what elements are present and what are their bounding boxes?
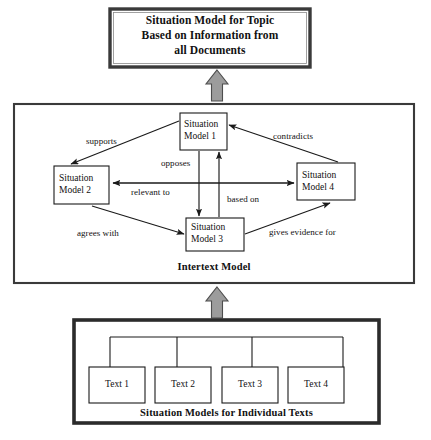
node-label-t3: Text 3 [222, 379, 278, 389]
node-label-sm4-line2: Model 4 [302, 182, 336, 194]
intertext-model-caption: Intertext Model [14, 261, 414, 272]
node-label-sm2-line1: Situation [59, 173, 93, 185]
relation-label-based-on: based on [227, 194, 259, 204]
relation-label-opposes: opposes [161, 158, 190, 168]
flow-arrow-intertext-to-banner [206, 70, 228, 101]
diagram-canvas [0, 0, 431, 440]
title-banner-text: Situation Model for Topic Based on Infor… [110, 13, 310, 59]
relation-label-supports: supports [86, 136, 117, 146]
node-label-t4: Text 4 [288, 379, 344, 389]
texts-section-caption: Situation Models for Individual Texts [74, 407, 379, 418]
relation-label-contradicts: contradicts [273, 131, 313, 141]
node-label-sm4: Situation Model 4 [302, 170, 336, 193]
node-label-sm2-line2: Model 2 [59, 185, 93, 197]
relation-label-gives-evidence-for: gives evidence for [269, 227, 336, 237]
node-label-sm1-line2: Model 1 [184, 131, 218, 143]
relation-label-agrees-with: agrees with [77, 228, 119, 238]
title-banner-line-2: Based on Information from [110, 28, 310, 43]
node-label-sm1: Situation Model 1 [184, 119, 218, 142]
node-label-sm1-line1: Situation [184, 119, 218, 131]
node-label-t2: Text 2 [155, 379, 211, 389]
flow-arrow-texts-to-intertext [206, 287, 228, 318]
node-label-sm2: Situation Model 2 [59, 173, 93, 196]
node-label-sm3-line1: Situation [191, 222, 225, 234]
title-banner-line-3: all Documents [110, 43, 310, 58]
relation-label-relevant-to: relevant to [131, 187, 170, 197]
node-label-sm4-line1: Situation [302, 170, 336, 182]
node-label-sm3: Situation Model 3 [191, 222, 225, 245]
node-label-sm3-line2: Model 3 [191, 234, 225, 246]
title-banner-line-1: Situation Model for Topic [110, 13, 310, 28]
diagram-root: Situation Model for Topic Based on Infor… [0, 0, 431, 440]
node-label-t1: Text 1 [89, 379, 145, 389]
